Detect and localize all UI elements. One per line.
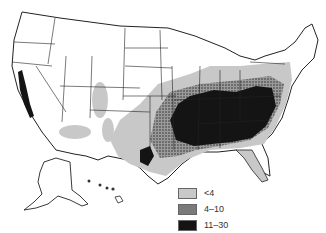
region-low-west-2 xyxy=(59,125,91,139)
legend-label-mid: 4–10 xyxy=(204,204,224,214)
legend-item-low: <4 xyxy=(178,186,228,200)
legend-item-mid: 4–10 xyxy=(178,202,228,216)
legend-label-high: 11–30 xyxy=(204,220,228,230)
legend-item-high: 11–30 xyxy=(178,218,228,232)
map-legend: <4 4–10 11–30 xyxy=(178,186,228,233)
hawaii xyxy=(88,180,124,204)
alaska-outline xyxy=(24,158,88,210)
us-choropleth-map xyxy=(0,0,326,233)
region-low-west-3 xyxy=(102,118,114,142)
legend-label-low: <4 xyxy=(204,188,214,198)
legend-swatch-high xyxy=(178,220,197,231)
legend-swatch-low xyxy=(178,188,197,199)
legend-swatch-mid xyxy=(178,204,197,215)
